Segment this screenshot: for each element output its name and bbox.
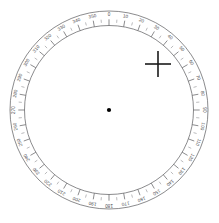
tick-major bbox=[93, 21, 94, 27]
tick-minor bbox=[188, 72, 191, 73]
tick-major bbox=[93, 193, 94, 199]
tick-major bbox=[163, 175, 167, 180]
tick-major bbox=[188, 139, 194, 141]
tick-minor bbox=[132, 195, 133, 198]
tick-major bbox=[51, 41, 55, 46]
tick-major bbox=[151, 31, 154, 36]
degree-label: 240 bbox=[22, 153, 30, 163]
tick-major bbox=[151, 183, 154, 188]
tick-minor bbox=[188, 147, 191, 148]
degree-label: 210 bbox=[56, 188, 66, 196]
tick-minor bbox=[146, 189, 147, 192]
degree-label: 70 bbox=[195, 74, 202, 81]
degree-label: 100 bbox=[199, 122, 205, 131]
degree-label: 230 bbox=[31, 166, 40, 176]
tick-minor bbox=[194, 133, 197, 134]
degree-label: 0 bbox=[108, 12, 111, 17]
degree-label: 350 bbox=[88, 13, 97, 19]
tick-major bbox=[174, 52, 179, 56]
tick-major bbox=[51, 175, 55, 180]
tick-major bbox=[138, 189, 140, 195]
tick-minor bbox=[27, 72, 30, 73]
tick-major bbox=[174, 164, 179, 168]
degree-label: 270 bbox=[11, 106, 16, 114]
tick-major bbox=[30, 65, 35, 68]
degree-label: 90 bbox=[202, 107, 207, 113]
protractor-dial: 0102030405060708090100110120130140150160… bbox=[0, 0, 219, 223]
degree-label: 140 bbox=[165, 178, 175, 187]
tick-minor bbox=[159, 36, 161, 39]
tick-major bbox=[30, 152, 35, 155]
tick-major bbox=[188, 79, 194, 81]
tick-major bbox=[163, 41, 167, 46]
degree-label: 330 bbox=[57, 23, 67, 31]
tick-minor bbox=[194, 87, 197, 88]
tick-minor bbox=[57, 36, 59, 39]
tick-minor bbox=[71, 189, 72, 192]
tick-major bbox=[20, 125, 26, 126]
tick-major bbox=[40, 164, 45, 168]
tick-minor bbox=[57, 182, 59, 185]
degree-label: 260 bbox=[12, 122, 18, 131]
degree-label: 20 bbox=[138, 17, 145, 24]
tick-major bbox=[192, 94, 198, 95]
tick-major bbox=[138, 25, 140, 31]
tick-minor bbox=[181, 160, 184, 162]
tick-major bbox=[78, 25, 80, 31]
tick-minor bbox=[86, 195, 87, 198]
tick-minor bbox=[181, 58, 184, 60]
tick-major bbox=[182, 152, 187, 155]
degree-label: 320 bbox=[43, 32, 53, 41]
tick-minor bbox=[21, 87, 24, 88]
tick-major bbox=[20, 94, 26, 95]
tick-minor bbox=[171, 172, 173, 174]
degree-label: 80 bbox=[200, 90, 206, 96]
tick-minor bbox=[45, 46, 47, 48]
tick-major bbox=[192, 125, 198, 126]
degree-label: 10 bbox=[122, 13, 128, 19]
tick-major bbox=[78, 189, 80, 195]
dial-canvas: 0102030405060708090100110120130140150160… bbox=[0, 0, 219, 223]
degree-label: 120 bbox=[187, 153, 195, 163]
tick-major bbox=[124, 193, 125, 199]
degree-label: 30 bbox=[153, 24, 160, 31]
tick-major bbox=[24, 139, 30, 141]
tick-major bbox=[64, 183, 67, 188]
degree-label: 280 bbox=[12, 89, 18, 98]
degree-label: 180 bbox=[105, 203, 113, 208]
degree-label: 190 bbox=[88, 200, 97, 206]
tick-minor bbox=[146, 28, 147, 31]
tick-major bbox=[24, 79, 30, 81]
tick-major bbox=[40, 52, 45, 56]
tick-minor bbox=[35, 160, 38, 162]
tick-minor bbox=[35, 58, 38, 60]
tick-minor bbox=[45, 172, 47, 174]
tick-minor bbox=[132, 22, 133, 25]
crosshair-marker bbox=[145, 51, 171, 77]
tick-major bbox=[182, 65, 187, 68]
tick-minor bbox=[86, 22, 87, 25]
tick-minor bbox=[159, 182, 161, 185]
tick-minor bbox=[71, 28, 72, 31]
tick-major bbox=[124, 21, 125, 27]
center-dot bbox=[107, 108, 111, 112]
degree-label: 170 bbox=[121, 201, 130, 207]
degree-label: 300 bbox=[22, 57, 30, 67]
tick-minor bbox=[171, 46, 173, 48]
tick-minor bbox=[27, 147, 30, 148]
degree-label: 60 bbox=[188, 59, 195, 66]
tick-major bbox=[64, 31, 67, 36]
tick-minor bbox=[21, 133, 24, 134]
degree-label: 150 bbox=[152, 188, 162, 196]
